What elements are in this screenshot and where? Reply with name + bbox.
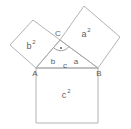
label-vertex-c: C (55, 29, 61, 38)
right-triangle-abc (36, 40, 98, 68)
geometry-canvas: a 2 b 2 c 2 b c a A B C (0, 0, 131, 129)
right-angle-dot-icon (60, 47, 62, 49)
label-side-a: a (74, 57, 79, 66)
square-a-squared (60, 6, 120, 68)
label-vertex-b: B (96, 69, 101, 78)
label-a-squared-base: a (81, 29, 86, 39)
label-b-squared-base: b (26, 41, 31, 51)
label-c-squared-exponent: 2 (67, 88, 71, 94)
label-c-squared-base: c (62, 90, 67, 100)
label-side-b: b (51, 57, 56, 66)
label-a-squared-exponent: 2 (87, 27, 91, 33)
label-b-squared-exponent: 2 (32, 39, 36, 45)
square-c-squared (36, 68, 98, 123)
pythagorean-theorem-figure: a 2 b 2 c 2 b c a A B C (0, 0, 131, 129)
label-vertex-a: A (32, 69, 38, 78)
label-side-c: c (63, 61, 67, 70)
